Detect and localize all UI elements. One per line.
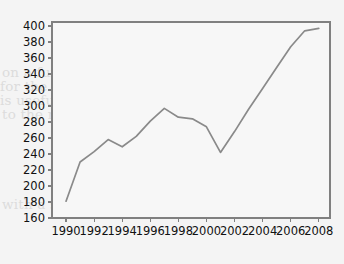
y-tick-label: 180 bbox=[23, 195, 45, 209]
y-tick-label: 380 bbox=[23, 35, 45, 49]
line-chart: of the production and comparison on a fu… bbox=[0, 0, 344, 264]
y-tick-label: 280 bbox=[23, 115, 45, 129]
y-tick-label: 200 bbox=[23, 179, 45, 193]
y-tick-label: 320 bbox=[23, 83, 45, 97]
x-tick-label: 2008 bbox=[304, 224, 333, 238]
plot-svg: 160180200220240260280300320340360380400 … bbox=[0, 0, 344, 264]
y-tick-label: 160 bbox=[23, 211, 45, 225]
x-tick-label: 2000 bbox=[192, 224, 221, 238]
x-tick-label: 1990 bbox=[51, 224, 80, 238]
y-tick-label: 360 bbox=[23, 51, 45, 65]
y-tick-label: 240 bbox=[23, 147, 45, 161]
y-tick-label: 400 bbox=[23, 19, 45, 33]
x-tick-label: 1996 bbox=[136, 224, 165, 238]
x-tick-label: 1998 bbox=[164, 224, 193, 238]
x-axis-ticks bbox=[66, 218, 319, 222]
x-tick-label: 2006 bbox=[276, 224, 305, 238]
y-tick-label: 340 bbox=[23, 67, 45, 81]
x-tick-label: 1994 bbox=[108, 224, 137, 238]
x-tick-label: 1992 bbox=[79, 224, 108, 238]
y-tick-label: 260 bbox=[23, 131, 45, 145]
y-axis-ticks bbox=[48, 26, 52, 218]
y-tick-label: 220 bbox=[23, 163, 45, 177]
y-tick-label: 300 bbox=[23, 99, 45, 113]
x-tick-label: 2004 bbox=[248, 224, 277, 238]
x-axis-labels: 1990199219941996199820002002200420062008 bbox=[51, 224, 333, 238]
y-axis-labels: 160180200220240260280300320340360380400 bbox=[23, 19, 45, 225]
x-tick-label: 2002 bbox=[220, 224, 249, 238]
